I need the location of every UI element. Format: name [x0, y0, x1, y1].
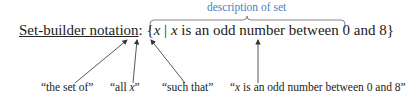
label-condition: “x is an odd number between 0 and 8” [230, 81, 406, 93]
condition-text: is an odd number between 0 and 8 [178, 22, 387, 38]
such-that-bar: | [164, 22, 167, 38]
condition-variable: x [171, 22, 178, 38]
variable: x [154, 22, 161, 38]
label-text: “all [110, 81, 129, 93]
set-builder-diagram: description of set Set-builder notation:… [0, 0, 410, 104]
close-brace: } [387, 22, 394, 38]
label-all-x: “all x” [110, 81, 140, 93]
term-label: Set-builder notation [19, 22, 139, 38]
label-such-that: “such that” [162, 81, 213, 93]
notation-line: Set-builder notation: {x | x is an odd n… [19, 22, 394, 39]
description-label: description of set [207, 1, 286, 13]
label-the-set-of: “the set of” [41, 81, 93, 93]
arrow-such-that [151, 40, 185, 83]
open-brace: { [146, 22, 153, 38]
label-text: is an odd number between 0 and 8” [240, 81, 405, 93]
arrow-all-x [133, 40, 137, 83]
colon: : [139, 22, 143, 38]
label-text: ” [135, 81, 140, 93]
arrow-the-set-of [75, 40, 127, 83]
